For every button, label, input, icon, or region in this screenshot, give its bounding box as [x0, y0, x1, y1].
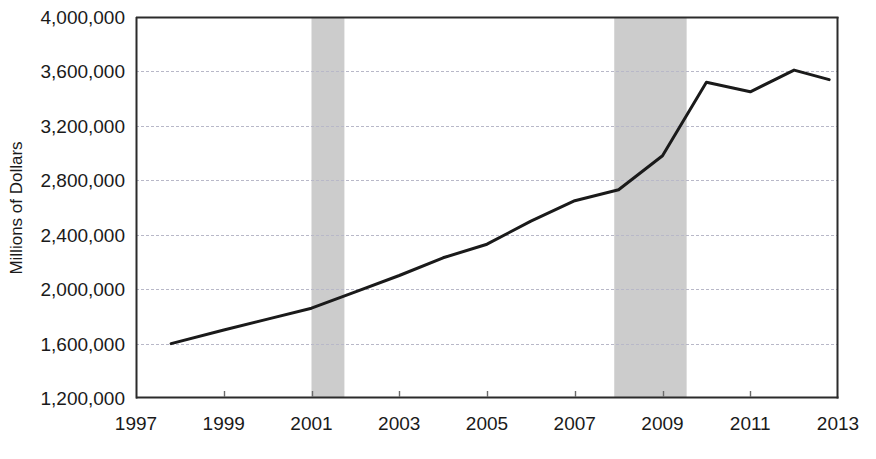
data-line-millions-of-dollars: [171, 70, 829, 344]
line-chart: 1,200,0001,600,0002,000,0002,400,0002,80…: [0, 0, 876, 459]
x-tick-labels-group: 199719992001200320052007200920112013: [115, 413, 859, 434]
x-tick-label: 2001: [290, 413, 332, 434]
y-tick-label: 2,800,000: [40, 170, 125, 191]
y-tick-label: 1,200,000: [40, 388, 125, 409]
y-tick-label: 1,600,000: [40, 334, 125, 355]
gridlines-group: [136, 72, 838, 345]
data-series-group: [171, 70, 829, 344]
y-tick-label: 2,000,000: [40, 279, 125, 300]
recession-2008: [614, 18, 686, 398]
y-axis-title: Millions of Dollars: [7, 141, 26, 274]
y-tick-label: 2,400,000: [40, 225, 125, 246]
y-tick-label: 3,600,000: [40, 61, 125, 82]
x-tick-label: 1999: [203, 413, 245, 434]
x-tick-label: 2005: [466, 413, 508, 434]
x-tick-label: 2011: [730, 413, 771, 434]
x-tick-label: 2013: [817, 413, 859, 434]
axes-frame: [136, 17, 839, 399]
shaded-regions-group: [312, 18, 687, 398]
y-tick-labels-group: 1,200,0001,600,0002,000,0002,400,0002,80…: [40, 7, 125, 409]
y-tick-label: 3,200,000: [40, 116, 125, 137]
chart-figure: 1,200,0001,600,0002,000,0002,400,0002,80…: [0, 0, 876, 459]
y-tick-label: 4,000,000: [40, 7, 125, 28]
x-tick-label: 2003: [378, 413, 420, 434]
x-tick-label: 1997: [115, 413, 157, 434]
x-tick-label: 2009: [641, 413, 683, 434]
x-tick-label: 2007: [554, 413, 596, 434]
recession-2001: [312, 18, 345, 398]
